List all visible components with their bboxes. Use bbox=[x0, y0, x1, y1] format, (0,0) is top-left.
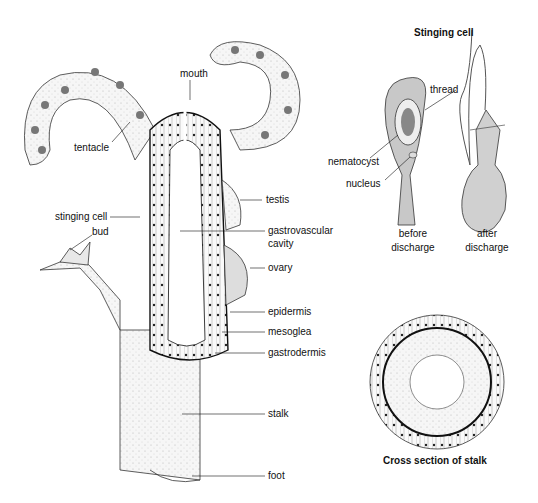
cross-section-title: Cross section of stalk bbox=[383, 455, 487, 466]
stalk-label: stalk bbox=[268, 408, 289, 420]
after-discharge-label-line2: discharge bbox=[457, 242, 517, 254]
mesoglea-label: mesoglea bbox=[268, 326, 311, 338]
stinging-cell-before bbox=[370, 78, 456, 226]
gastrodermis-label: gastrodermis bbox=[268, 347, 326, 359]
before-discharge-label-line2: discharge bbox=[383, 242, 443, 254]
after-discharge-label: after bbox=[462, 228, 512, 240]
epidermis-label: epidermis bbox=[268, 306, 311, 318]
bud-label: bud bbox=[92, 226, 109, 238]
stinging-cell-after bbox=[460, 30, 506, 232]
nematocyst-label: nematocyst bbox=[328, 156, 379, 168]
gastrovascular-cavity bbox=[168, 140, 205, 346]
gastrovascular-cavity-label: gastrovascular bbox=[268, 225, 333, 237]
testis-label: testis bbox=[266, 194, 289, 206]
mouth-label: mouth bbox=[180, 68, 208, 80]
ovary-shape bbox=[224, 245, 247, 305]
stinging-cell-title: Stinging cell bbox=[414, 27, 473, 38]
stinging-cell-label: stinging cell bbox=[55, 211, 107, 223]
tentacle-label: tentacle bbox=[74, 142, 109, 154]
bud-shape bbox=[60, 242, 90, 265]
cross-section-shape bbox=[370, 315, 504, 449]
thread-label: thread bbox=[430, 84, 458, 96]
before-discharge-label: before bbox=[388, 228, 438, 240]
nucleus-label: nucleus bbox=[346, 178, 380, 190]
gastrovascular-cavity-label-line2: cavity bbox=[268, 238, 294, 250]
foot-label: foot bbox=[268, 470, 285, 482]
testis-shape bbox=[222, 180, 241, 230]
tentacle-right bbox=[210, 42, 300, 150]
ovary-label: ovary bbox=[268, 262, 292, 274]
